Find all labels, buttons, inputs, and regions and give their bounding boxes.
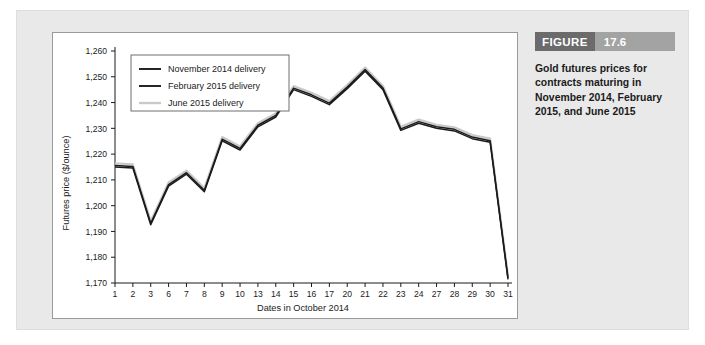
futures-price-line-chart: 1,1701,1801,1901,2001,2101,2201,2301,240… [53, 33, 519, 320]
y-tick-label: 1,260 [85, 46, 107, 56]
x-tick-label: 9 [220, 289, 225, 299]
x-tick-label: 8 [202, 289, 207, 299]
y-tick-label: 1,190 [85, 227, 107, 237]
x-tick-label: 31 [503, 289, 513, 299]
figure-badge-number: 17.6 [595, 32, 675, 51]
x-tick-label: 20 [342, 289, 352, 299]
x-tick-label: 6 [166, 289, 171, 299]
y-tick-label: 1,210 [85, 175, 107, 185]
figure-badge-label: FIGURE [535, 32, 595, 51]
figure-page: 1,1701,1801,1901,2001,2101,2201,2301,240… [0, 0, 705, 345]
figure-caption-column: FIGURE 17.6 Gold futures prices for cont… [535, 32, 687, 319]
x-tick-label: 13 [253, 289, 263, 299]
x-tick-label: 16 [307, 289, 317, 299]
legend-label: June 2015 delivery [168, 98, 244, 108]
x-tick-label: 28 [450, 289, 460, 299]
chart-card: 1,1701,1801,1901,2001,2101,2201,2301,240… [52, 32, 518, 319]
y-tick-label: 1,180 [85, 252, 107, 262]
x-tick-label: 27 [432, 289, 442, 299]
x-tick-label: 29 [467, 289, 477, 299]
y-tick-label: 1,220 [85, 149, 107, 159]
x-tick-label: 15 [289, 289, 299, 299]
x-tick-label: 17 [325, 289, 335, 299]
chart-legend: November 2014 deliveryFebruary 2015 deli… [131, 55, 289, 111]
y-tick-label: 1,200 [85, 201, 107, 211]
x-tick-label: 3 [148, 289, 153, 299]
x-tick-label: 1 [113, 289, 118, 299]
y-axis-title: Futures price ($/ounce) [61, 136, 71, 231]
x-tick-label: 10 [235, 289, 245, 299]
x-tick-label: 24 [414, 289, 424, 299]
x-tick-label: 23 [396, 289, 406, 299]
legend-label: November 2014 delivery [168, 64, 266, 74]
x-tick-label: 21 [360, 289, 370, 299]
figure-panel: 1,1701,1801,1901,2001,2101,2201,2301,240… [16, 10, 689, 330]
y-axis: 1,1701,1801,1901,2001,2101,2201,2301,240… [85, 46, 115, 288]
x-tick-label: 2 [130, 289, 135, 299]
x-axis: 123678910131415161720212223242728293031 [113, 283, 513, 299]
figure-caption-text: Gold futures prices for contracts maturi… [535, 62, 663, 120]
x-axis-title: Dates in October 2014 [257, 303, 349, 313]
y-tick-label: 1,240 [85, 98, 107, 108]
figure-badge: FIGURE 17.6 [535, 32, 675, 51]
y-tick-label: 1,250 [85, 72, 107, 82]
x-tick-label: 14 [271, 289, 281, 299]
y-tick-label: 1,170 [85, 278, 107, 288]
y-tick-label: 1,230 [85, 124, 107, 134]
x-tick-label: 7 [184, 289, 189, 299]
legend-label: February 2015 delivery [168, 81, 261, 91]
chart-area: 1,1701,1801,1901,2001,2101,2201,2301,240… [53, 33, 517, 318]
x-tick-label: 22 [378, 289, 388, 299]
x-tick-label: 30 [485, 289, 495, 299]
